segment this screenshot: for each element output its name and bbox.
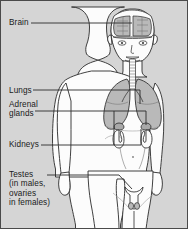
left-pupil	[121, 42, 123, 44]
label-testes-line4: in females)	[9, 198, 50, 207]
left-gonad	[128, 203, 133, 210]
navel-dot	[132, 156, 134, 158]
right-ear	[153, 35, 157, 44]
organ-diagram-figure: Brain Lungs Adrenalglands Kidneys Testes…	[0, 0, 188, 229]
label-adrenal-glands-line2: glands	[9, 109, 34, 118]
right-pupil	[142, 42, 144, 44]
left-hand	[59, 172, 70, 195]
left-adrenal-gland	[114, 123, 124, 130]
label-testes-line2: (in males,	[9, 179, 46, 188]
right-gonad	[134, 203, 139, 210]
label-adrenal-glands-line1: Adrenal	[9, 100, 38, 109]
brain-organ	[111, 10, 154, 37]
label-testes-line1: Testes	[9, 170, 33, 179]
label-kidneys: Kidneys	[9, 140, 39, 149]
label-adrenal-glands: Adrenalglands	[9, 100, 38, 119]
label-testes-ovaries: Testes(in males,ovariesin females)	[9, 170, 50, 208]
label-brain: Brain	[9, 18, 29, 27]
label-testes-line3: ovaries	[9, 189, 36, 198]
right-kidney	[141, 130, 152, 148]
label-lungs: Lungs	[9, 86, 32, 95]
